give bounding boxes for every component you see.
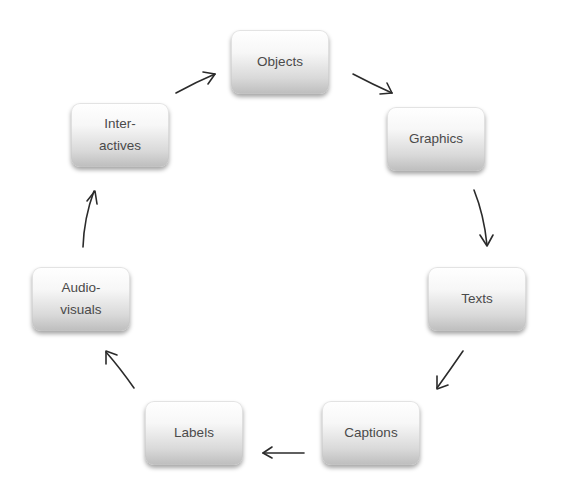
node-label-graphics: Graphics [409,128,463,150]
node-label-texts: Texts [461,288,493,310]
arrow-graphics-to-texts-icon [474,190,493,246]
arrow-audiovisuals-to-interactives-icon [83,191,97,247]
node-objects: Objects [231,30,329,94]
node-label-labels: Labels [174,422,214,444]
node-labels: Labels [145,401,243,465]
node-graphics: Graphics [387,107,485,171]
node-label-audio-visuals: Audio- visuals [60,277,101,321]
arrow-texts-to-captions-icon [437,351,463,389]
node-label-captions: Captions [344,422,397,444]
node-inter-actives: Inter- actives [71,103,169,167]
node-texts: Texts [428,267,526,331]
node-audio-visuals: Audio- visuals [32,267,130,331]
node-label-objects: Objects [257,51,303,73]
arrow-captions-to-labels-icon [263,447,304,458]
node-label-inter-actives: Inter- actives [99,113,141,157]
arrow-objects-to-graphics-icon [353,74,392,94]
arrow-interactives-to-objects-icon [176,72,215,93]
cycle-diagram: Objects Graphics Texts Captions Labels A… [0,0,563,499]
node-captions: Captions [322,401,420,465]
arrow-labels-to-audiovisuals-icon [106,351,134,388]
